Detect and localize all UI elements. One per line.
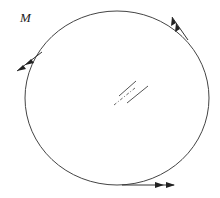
velocity-vector-left bbox=[17, 52, 42, 71]
arrowhead-icon bbox=[155, 182, 164, 188]
arrowhead-icon bbox=[166, 182, 175, 188]
section-line bbox=[127, 86, 148, 103]
velocity-vector-bottom bbox=[122, 182, 175, 188]
closed-path-curve bbox=[25, 11, 209, 185]
velocity-vector-top-right bbox=[171, 17, 188, 40]
arrowhead-icon bbox=[17, 65, 26, 71]
label-m: M bbox=[19, 10, 32, 25]
center-section-mark bbox=[114, 81, 148, 105]
circular-path-diagram: M bbox=[0, 0, 220, 198]
